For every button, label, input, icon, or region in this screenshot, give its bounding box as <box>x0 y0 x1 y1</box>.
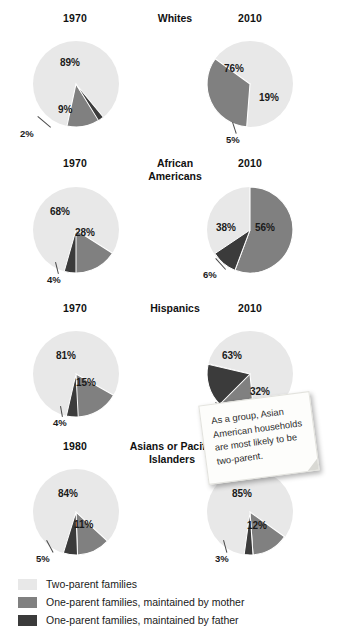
column-year-right-row-2: 2010 <box>220 302 280 314</box>
pie-label-whites-1970-mother: 9% <box>58 104 72 115</box>
column-year-left-row-3: 1980 <box>45 440 105 452</box>
pie-whites-2010 <box>206 40 294 128</box>
row-title-line-2: Americans <box>120 170 230 183</box>
callout-note-text: As a group, Asian American households ar… <box>211 403 309 469</box>
pie-label-hispanics-1970-two-parent: 81% <box>56 350 76 361</box>
column-year-left-row-0: 1970 <box>45 12 105 24</box>
pie-asians-1980 <box>32 468 120 556</box>
pie-whites-1970-svg <box>32 40 120 128</box>
legend-item-mother: One-parent families, maintained by mothe… <box>18 594 338 610</box>
pie-label-aa-2010-mother: 56% <box>255 222 275 233</box>
pie-label-aa-2010-father: 6% <box>203 269 217 280</box>
pie-label-whites-1970-two-parent: 89% <box>60 57 80 68</box>
legend-item-two-parent: Two-parent families <box>18 576 338 592</box>
pie-label-hispanics-1970-mother: 15% <box>76 377 96 388</box>
column-year-right-row-1: 2010 <box>220 157 280 169</box>
legend-item-father: One-parent families, maintained by fathe… <box>18 612 338 628</box>
pie-label-asians-1980-father: 5% <box>36 553 50 564</box>
row-title-hispanics: Hispanics <box>120 302 230 315</box>
pie-label-hispanics-2010-mother: 32% <box>250 386 270 397</box>
legend-label-father: One-parent families, maintained by fathe… <box>46 614 239 626</box>
pie-whites-2010-svg <box>206 40 294 128</box>
legend-swatch-father <box>18 615 37 626</box>
pie-hispanics-1970 <box>32 330 120 418</box>
pie-label-whites-2010-two-parent: 76% <box>224 63 244 74</box>
pie-label-aa-1970-mother: 28% <box>75 227 95 238</box>
row-title-whites: Whites <box>120 12 230 25</box>
callout-note: As a group, Asian American households ar… <box>198 391 319 485</box>
pie-label-asians-2010-two-parent: 85% <box>232 488 252 499</box>
pie-label-aa-2010-two-parent: 38% <box>216 222 236 233</box>
pie-label-whites-2010-mother: 19% <box>259 92 279 103</box>
pie-asians-1980-svg <box>32 468 120 556</box>
pie-label-aa-1970-two-parent: 68% <box>50 206 70 217</box>
pie-label-asians-1980-two-parent: 84% <box>58 488 78 499</box>
legend: Two-parent families One-parent families,… <box>18 576 338 630</box>
column-year-left-row-2: 1970 <box>45 302 105 314</box>
pie-label-whites-1970-father: 2% <box>20 128 34 139</box>
pie-label-aa-1970-father: 4% <box>47 274 61 285</box>
callout-note-fold-icon <box>306 459 318 471</box>
row-title-african-americans: African Americans <box>120 157 230 182</box>
legend-swatch-mother <box>18 597 37 608</box>
pie-label-hispanics-2010-two-parent: 63% <box>222 350 242 361</box>
column-year-right-row-0: 2010 <box>220 12 280 24</box>
pie-label-asians-2010-mother: 12% <box>247 520 267 531</box>
row-title-line-1: African <box>120 157 230 170</box>
legend-label-two-parent: Two-parent families <box>46 578 137 590</box>
pie-label-hispanics-1970-father: 4% <box>53 417 67 428</box>
pie-label-asians-1980-mother: 11% <box>74 519 93 530</box>
legend-label-mother: One-parent families, maintained by mothe… <box>46 596 244 608</box>
pie-whites-1970 <box>32 40 120 128</box>
column-year-left-row-1: 1970 <box>45 157 105 169</box>
pie-label-asians-2010-father: 3% <box>215 553 229 564</box>
pie-hispanics-1970-svg <box>32 330 120 418</box>
legend-swatch-two-parent <box>18 579 37 590</box>
pie-label-whites-2010-father: 5% <box>226 134 240 145</box>
